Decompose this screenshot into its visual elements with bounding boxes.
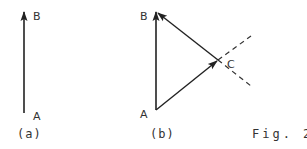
panel-a: B A (a)	[17, 10, 42, 141]
point-c-label: C	[227, 58, 235, 71]
figure-canvas: B A (a) B A C (b) Fig. 2	[0, 0, 307, 149]
vector-a-to-c-arrow	[156, 61, 217, 110]
panel-a-caption: (a)	[17, 127, 42, 141]
point-a-label: A	[33, 110, 41, 123]
panel-b: B A C (b)	[140, 10, 251, 141]
point-b-label: B	[33, 10, 41, 23]
panel-b-caption: (b)	[150, 127, 175, 141]
vector-c-to-b-arrow	[158, 13, 218, 60]
point-a-label: A	[140, 108, 148, 121]
figure-caption: Fig. 2	[252, 127, 307, 141]
dashed-line-upper	[218, 36, 251, 60]
point-b-label: B	[140, 10, 148, 23]
